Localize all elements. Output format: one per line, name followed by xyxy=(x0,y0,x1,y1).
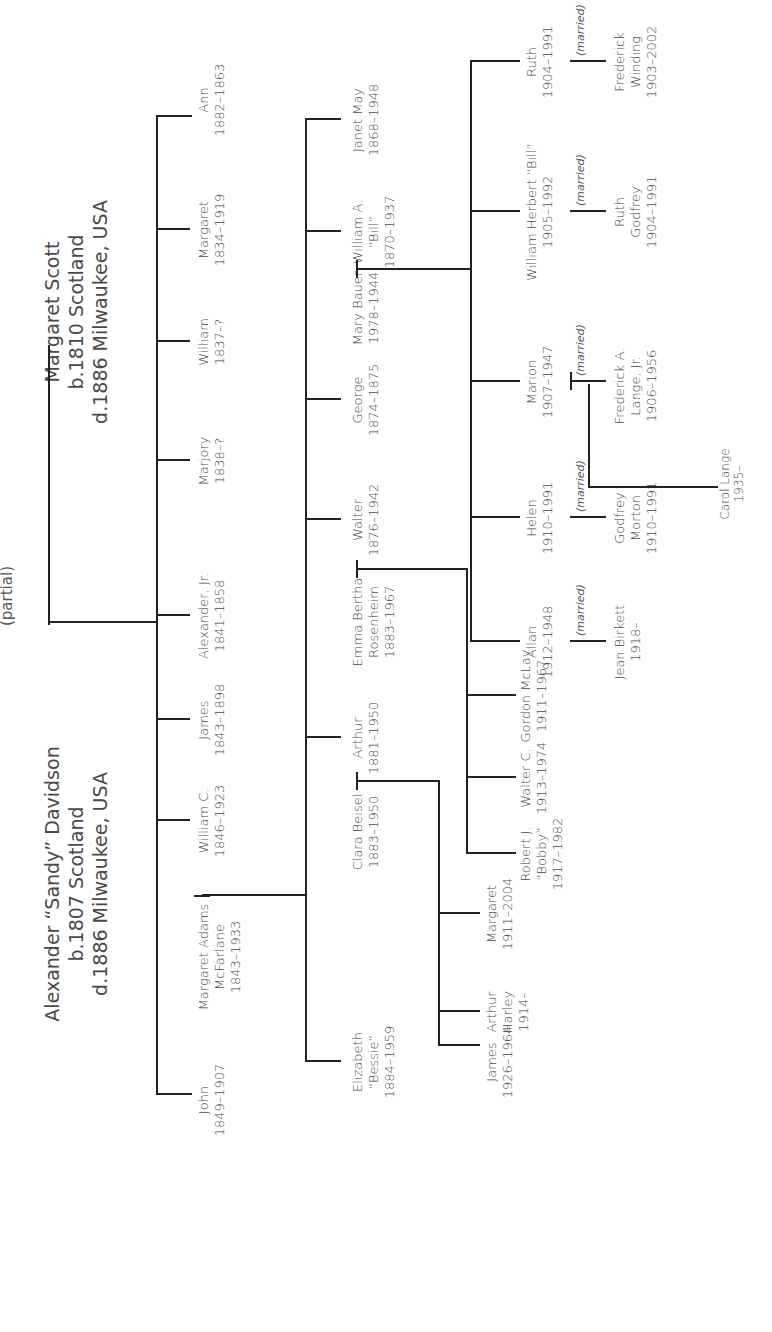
person-william-1837: William1837–? xyxy=(196,318,228,366)
person-frederick-a-lange-jr: Frederick A.Lange, Jr.1906–1956 xyxy=(612,348,660,424)
person-robert-j-bobby: Robert J.“Bobby”1917–1982 xyxy=(518,818,566,891)
person-alexander-jr: Alexander, Jr.1841–1858 xyxy=(196,573,228,659)
carol-line-vertical xyxy=(588,486,718,488)
root-wife-born: b.1810 Scotland xyxy=(64,200,88,424)
married-label-ruth: (married) xyxy=(574,4,587,56)
root-husband-name: Alexander “Sandy” Davidson xyxy=(40,746,64,1021)
gen4-tick-walter-c xyxy=(466,776,516,778)
person-helen: Helen1910–1991 xyxy=(524,482,556,555)
person-ruth-1904: Ruth1904–1991 xyxy=(524,26,556,99)
carol-line-horizontal xyxy=(588,384,590,488)
gen3-tick-elizabeth xyxy=(305,1060,341,1062)
marion-tcap xyxy=(570,372,572,390)
gen4-tick-gordon xyxy=(466,694,516,696)
gen4-tick-margaret-1911 xyxy=(438,912,480,914)
gen2-tick-margaret xyxy=(156,228,190,230)
gen4-tick-arthur-harley xyxy=(438,1010,480,1012)
gen4-tick-marion xyxy=(470,380,520,382)
person-margaret-adams-mcfarlane: Margaret AdamsMcFarlane1843–1933 xyxy=(196,904,244,1011)
person-marjory: Marjory1838–? xyxy=(196,436,228,485)
person-ruth-godfrey: RuthGodfrey1904–1991 xyxy=(612,176,660,249)
root-wife-name: Margaret Scott xyxy=(40,200,64,424)
gen2-tick-ann xyxy=(156,115,192,117)
gen2-tick-marjory xyxy=(156,459,190,461)
root-husband-died: d.1886 Milwaukee, USA xyxy=(88,746,112,1021)
married-bar-william-herbert xyxy=(570,210,606,212)
person-walter: Walter1876–1942 xyxy=(350,484,382,557)
marriage-tcap-arthur xyxy=(356,772,358,790)
root-husband: Alexander “Sandy” Davidson b.1807 Scotla… xyxy=(40,746,112,1021)
gen2-tick-john xyxy=(156,1093,192,1095)
person-william-herbert-bill: William Herbert “Bill”1905–1992 xyxy=(524,143,556,281)
person-jean-birkett: Jean Birkett1918– xyxy=(612,605,644,680)
person-janet-may: Janet May1868–1948 xyxy=(350,84,382,157)
root-drop-line xyxy=(48,621,158,623)
gen4-tick-james-1926 xyxy=(438,1044,480,1046)
root-wife: Margaret Scott b.1810 Scotland d.1886 Mi… xyxy=(40,200,112,424)
gen2-tick-alexander-jr xyxy=(156,614,190,616)
person-elizabeth-bessie: Elizabeth“Bessie”1884–1959 xyxy=(350,1026,398,1099)
person-james-1926: James1926–1964 xyxy=(484,1026,516,1099)
gen2-bus xyxy=(156,115,158,1095)
married-label-helen: (married) xyxy=(574,460,587,512)
marriage-drop-william-c xyxy=(202,894,306,896)
person-george: George1874–1875 xyxy=(350,364,382,437)
person-emma-bertha-rosenheim: Emma BerthaRosenheim1883–1967 xyxy=(350,578,398,667)
married-label-allan: (married) xyxy=(574,584,587,636)
person-mary-bauer: Mary Bauer1978–1944 xyxy=(350,271,382,345)
married-bar-ruth xyxy=(570,60,606,62)
married-label-william-herbert: (married) xyxy=(574,154,587,206)
person-carol-lange: Carol Lange1935– xyxy=(718,448,746,519)
person-walter-c: Walter C.1913–1974 xyxy=(518,742,550,815)
person-clara-beisel: Clara Beisel1883–1950 xyxy=(350,794,382,871)
gen4-tick-helen xyxy=(470,516,520,518)
gen4-tick-allan xyxy=(470,640,520,642)
married-label-marion: (married) xyxy=(574,324,587,376)
subtitle: (partial) xyxy=(0,566,16,626)
gen4-bill-bus-main xyxy=(470,60,472,642)
gen3-tick-william-a xyxy=(305,230,341,232)
married-bar-marion xyxy=(570,380,606,382)
person-godfrey-morton: GodfreyMorton1910–1991 xyxy=(612,482,660,555)
root-marriage-line xyxy=(48,345,50,625)
root-husband-born: b.1807 Scotland xyxy=(64,746,88,1021)
person-william-c: William C.1846–1923 xyxy=(196,785,228,858)
gen4-tick-robert xyxy=(466,852,516,854)
marriage-drop-bill xyxy=(358,268,470,270)
gen4-walter-bus xyxy=(466,568,468,854)
person-william-a-bill: William A.“Bill”1870–1937 xyxy=(350,196,398,269)
gen3-tick-walter xyxy=(305,518,341,520)
gen4-tick-ruth xyxy=(470,60,520,62)
gen3-tick-arthur xyxy=(305,736,341,738)
gen2-tick-william xyxy=(156,340,190,342)
root-wife-died: d.1886 Milwaukee, USA xyxy=(88,200,112,424)
marriage-drop-arthur-clara xyxy=(358,780,438,782)
person-margaret-1834: Margaret1834–1919 xyxy=(196,194,228,267)
gen3-bus xyxy=(305,118,307,1062)
person-john: John1849–1907 xyxy=(196,1064,228,1137)
person-ann: Ann1882–1863 xyxy=(196,64,228,137)
marriage-tcap-bill xyxy=(356,260,358,278)
person-margaret-1911: Margaret1911–2004 xyxy=(484,878,516,951)
gen4-tick-william-herbert xyxy=(470,210,520,212)
married-bar-helen xyxy=(570,516,606,518)
marriage-drop-walter xyxy=(358,568,466,570)
gen2-tick-james xyxy=(156,718,190,720)
person-james-1843: James1843–1898 xyxy=(196,684,228,757)
family-tree: (partial) Alexander “Sandy” Davidson b.1… xyxy=(0,0,772,1332)
person-gordon-mclay: Gordon McLay1911–1967 xyxy=(518,650,550,743)
person-frederick-winding: FrederickWinding1903–2002 xyxy=(612,26,660,99)
marriage-tcap-walter xyxy=(356,560,358,578)
gen2-tick-william-c xyxy=(156,819,190,821)
person-arthur-1881: Arthur1881–1950 xyxy=(350,702,382,775)
gen3-tick-george xyxy=(305,398,341,400)
person-marion: Marion1907–1947 xyxy=(524,346,556,419)
married-bar-allan xyxy=(570,640,606,642)
gen3-tick-janet-may xyxy=(305,118,341,120)
